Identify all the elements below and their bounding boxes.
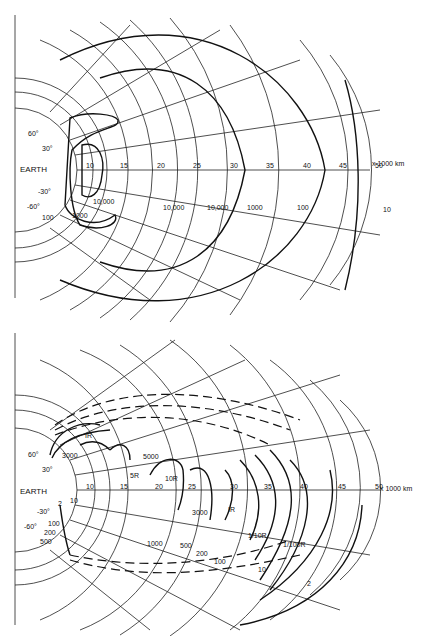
svg-text:100: 100	[48, 520, 60, 527]
svg-text:50: 50	[375, 483, 383, 490]
svg-text:500: 500	[40, 538, 52, 545]
svg-text:10,000: 10,000	[93, 198, 115, 205]
svg-text:15: 15	[120, 162, 128, 169]
svg-text:45: 45	[338, 483, 346, 490]
svg-text:-60°: -60°	[27, 203, 40, 210]
svg-text:60°: 60°	[28, 130, 39, 137]
top-axis-ticks: 10 15 20 25 30 35 40 45 50	[86, 162, 383, 169]
top-panel: EARTH x 1000 km 10 15 20 25 30 35 40 45 …	[15, 15, 404, 322]
svg-text:2: 2	[307, 580, 311, 587]
svg-text:30°: 30°	[42, 145, 53, 152]
svg-text:200: 200	[196, 550, 208, 557]
bottom-contours	[50, 424, 362, 625]
svg-text:1000: 1000	[147, 540, 163, 547]
svg-text:3000: 3000	[62, 452, 78, 459]
bottom-axis-unit: x 1000 km	[380, 485, 412, 492]
svg-text:40: 40	[300, 483, 308, 490]
svg-text:IR: IR	[228, 506, 235, 513]
svg-text:5000: 5000	[143, 453, 159, 460]
bottom-lower-labels: 2 10 100 200 500 1000 500 200 100	[40, 497, 226, 565]
top-latitude-lines	[50, 25, 380, 300]
svg-text:3000: 3000	[192, 509, 208, 516]
svg-text:500: 500	[180, 542, 192, 549]
svg-text:45: 45	[339, 162, 347, 169]
svg-text:50: 50	[375, 162, 383, 169]
svg-text:IR: IR	[85, 432, 92, 439]
svg-text:100: 100	[297, 204, 309, 211]
bottom-axis-ticks: 10 15 20 25 30 35 40 45 50	[86, 483, 383, 490]
svg-text:20: 20	[155, 483, 163, 490]
svg-text:35: 35	[264, 483, 272, 490]
svg-text:5R: 5R	[130, 472, 139, 479]
svg-text:200: 200	[44, 529, 56, 536]
top-contours	[60, 35, 358, 301]
svg-text:30°: 30°	[42, 466, 53, 473]
svg-text:15: 15	[120, 483, 128, 490]
svg-text:30: 30	[230, 162, 238, 169]
svg-text:10: 10	[258, 566, 266, 573]
bottom-earth-label: EARTH	[20, 487, 47, 496]
svg-text:30: 30	[230, 483, 238, 490]
svg-text:10: 10	[70, 497, 78, 504]
top-earth-label: EARTH	[20, 165, 47, 174]
bottom-upper-labels: IR 3000 5R 5000 10R 3000 IR	[62, 432, 235, 516]
figure-canvas: EARTH x 1000 km 10 15 20 25 30 35 40 45 …	[0, 0, 431, 636]
svg-text:20: 20	[157, 162, 165, 169]
svg-text:35: 35	[266, 162, 274, 169]
svg-text:-30°: -30°	[37, 508, 50, 515]
svg-text:10: 10	[86, 483, 94, 490]
svg-text:10,000: 10,000	[207, 204, 229, 211]
svg-text:40: 40	[303, 162, 311, 169]
svg-text:1/10R: 1/10R	[248, 532, 267, 539]
svg-text:2: 2	[58, 500, 62, 507]
bottom-panel: EARTH x 1000 km 10 15 20 25 30 35 40 45 …	[15, 333, 412, 636]
svg-text:25: 25	[193, 162, 201, 169]
svg-text:1000: 1000	[72, 212, 88, 219]
svg-text:-60°: -60°	[24, 523, 37, 530]
bottom-range-arcs	[15, 340, 381, 636]
svg-text:10: 10	[86, 162, 94, 169]
svg-text:1000: 1000	[247, 204, 263, 211]
svg-text:60°: 60°	[28, 451, 39, 458]
svg-text:1/100R: 1/100R	[283, 541, 306, 548]
svg-text:10,000: 10,000	[163, 204, 185, 211]
top-contour-labels: 10,000 1000 100 10,000 10,000 1000 100 1…	[42, 198, 391, 221]
svg-text:100: 100	[42, 214, 54, 221]
svg-text:100: 100	[214, 558, 226, 565]
svg-text:25: 25	[188, 483, 196, 490]
svg-text:-30°: -30°	[38, 188, 51, 195]
svg-text:10R: 10R	[165, 475, 178, 482]
bottom-latitude-lines	[50, 340, 380, 630]
svg-text:10: 10	[383, 206, 391, 213]
